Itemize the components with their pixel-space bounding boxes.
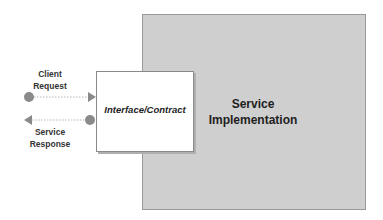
response-arrowhead-icon: [24, 115, 32, 125]
request-arrowhead-icon: [88, 92, 96, 102]
client-request-arrow: [24, 92, 96, 102]
connector-arrows: [0, 0, 383, 220]
service-response-arrow: [24, 115, 95, 125]
request-origin-dot-icon: [24, 92, 34, 102]
response-origin-dot-icon: [85, 115, 95, 125]
